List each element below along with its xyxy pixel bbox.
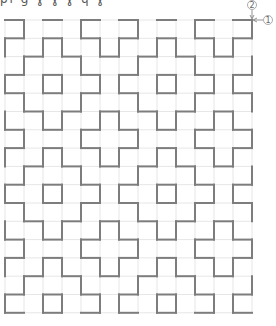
annotation-number: 1 [265, 16, 270, 25]
annotation-number: 2 [249, 1, 254, 10]
annotation-marker-2: 2 [248, 1, 257, 20]
sashiko-stitch-pattern: 21 [0, 0, 276, 326]
annotation-marker-1: 1 [253, 16, 273, 26]
